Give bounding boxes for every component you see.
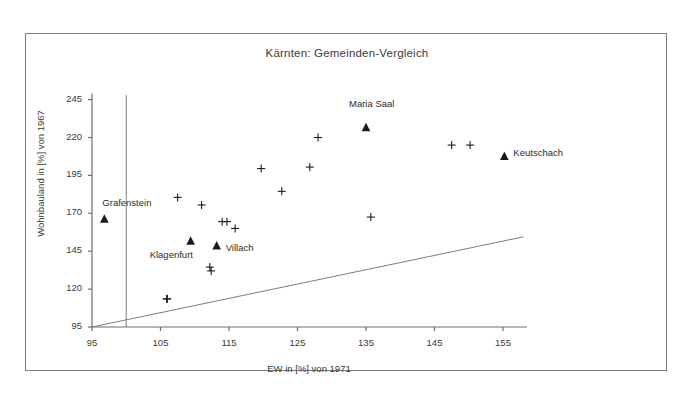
data-point-triangle [186,236,195,245]
plot-area [0,0,694,403]
data-point-plus [174,193,182,201]
diagonal-trend-line [92,237,524,327]
axis-lines [88,94,527,331]
data-point-triangle [212,241,221,250]
data-point-triangle [362,123,371,131]
data-point-plus [466,141,474,149]
data-point-plus [206,263,214,271]
data-point-plus [306,163,314,171]
data-point-triangle [500,151,509,160]
data-point-plus [278,187,286,195]
data-point-plus [314,134,322,142]
reference-lines [92,95,524,327]
data-point-plus [223,218,231,226]
chart-canvas: Kärnten: Gemeinden-Vergleich Wohnbauland… [0,0,694,403]
data-point-plus [367,213,375,221]
data-markers [100,123,509,303]
data-point-plus [163,295,171,303]
data-point-triangle [100,214,109,223]
data-point-plus [448,141,456,149]
data-point-plus [207,267,215,275]
data-point-plus [257,165,265,173]
data-point-plus [198,201,206,209]
data-point-plus [231,224,239,232]
